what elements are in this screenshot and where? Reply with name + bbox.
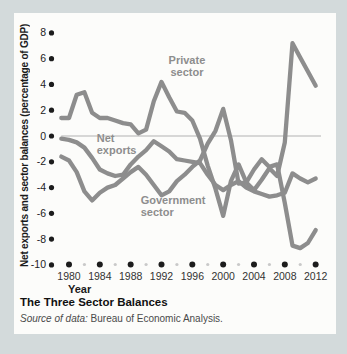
y-axis-title: Net exports and sector balances (percent… xyxy=(16,16,32,274)
x-tick-label: 1980 xyxy=(57,270,81,282)
x-minor-tick-dot xyxy=(144,263,147,266)
y-tick-dot xyxy=(49,30,54,35)
x-tick-dot xyxy=(66,262,72,268)
x-axis-title: Year xyxy=(68,283,91,295)
series-label-government-sector: Government xyxy=(141,194,206,206)
y-tick-label: -6 xyxy=(37,207,46,219)
figure-title: The Three Sector Balances xyxy=(20,296,168,308)
y-tick-dot xyxy=(49,185,54,190)
x-tick-dot xyxy=(251,262,257,268)
y-tick-dot xyxy=(49,211,54,216)
x-tick-dot xyxy=(220,262,226,268)
y-tick-label: -10 xyxy=(31,258,46,270)
x-minor-tick-dot xyxy=(268,263,271,266)
x-tick-label: 2008 xyxy=(273,270,297,282)
y-tick-label: 8 xyxy=(40,26,46,38)
x-tick-dot xyxy=(282,262,288,268)
source-text: Bureau of Economic Analysis. xyxy=(88,313,223,324)
series-label-private-sector: Private xyxy=(169,54,206,66)
x-tick-dot xyxy=(128,262,134,268)
series-label-government-sector: sector xyxy=(141,206,175,218)
x-tick-dot xyxy=(313,262,319,268)
x-tick-label: 1984 xyxy=(88,270,112,282)
x-minor-tick-dot xyxy=(175,263,178,266)
series-label-net-exports: Net xyxy=(97,132,115,144)
x-tick-label: 1992 xyxy=(150,270,174,282)
x-minor-tick-dot xyxy=(114,263,117,266)
y-tick-label: 4 xyxy=(40,78,46,90)
y-tick-dot xyxy=(49,262,54,267)
series-line-government-sector xyxy=(61,109,315,248)
x-tick-dot xyxy=(97,262,103,268)
source-prefix: Source of data: xyxy=(20,313,88,324)
x-minor-tick-dot xyxy=(83,263,86,266)
x-tick-label: 2000 xyxy=(211,270,235,282)
x-tick-label: 1988 xyxy=(119,270,143,282)
x-minor-tick-dot xyxy=(206,263,209,266)
x-minor-tick-dot xyxy=(299,263,302,266)
y-tick-label: 0 xyxy=(40,130,46,142)
y-tick-dot xyxy=(49,108,54,113)
y-tick-dot xyxy=(49,133,54,138)
x-minor-tick-dot xyxy=(237,263,240,266)
figure-page: 86420-2-4-6-8-10198019841988199219962000… xyxy=(0,0,347,354)
x-tick-dot xyxy=(158,262,164,268)
y-tick-dot xyxy=(49,56,54,61)
x-tick-label: 1996 xyxy=(181,270,205,282)
y-tick-label: -8 xyxy=(37,233,46,245)
figure-source: Source of data: Bureau of Economic Analy… xyxy=(20,313,223,324)
y-tick-label: -4 xyxy=(37,181,46,193)
y-tick-label: 2 xyxy=(40,104,46,116)
x-tick-label: 2012 xyxy=(304,270,328,282)
series-label-net-exports: exports xyxy=(97,144,137,156)
series-label-private-sector: sector xyxy=(170,66,204,78)
x-tick-dot xyxy=(189,262,195,268)
x-tick-label: 2004 xyxy=(242,270,266,282)
y-tick-label: 6 xyxy=(40,52,46,64)
y-tick-dot xyxy=(49,237,54,242)
y-tick-label: -2 xyxy=(37,155,46,167)
y-tick-dot xyxy=(49,159,54,164)
y-tick-dot xyxy=(49,82,54,87)
